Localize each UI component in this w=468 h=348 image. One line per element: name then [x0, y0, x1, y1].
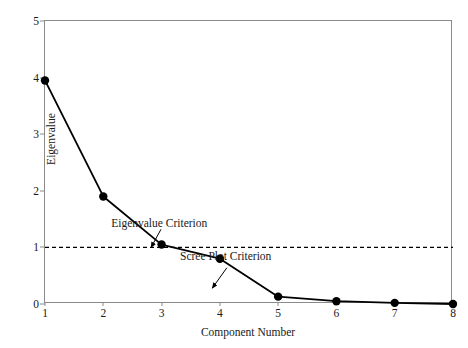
x-tick-label: 5: [275, 307, 281, 319]
data-marker-group: [41, 76, 457, 308]
data-point-marker: [391, 299, 399, 307]
data-point-marker: [41, 76, 49, 84]
eigenvalue-criterion-label: Eigenvalue Criterion: [111, 217, 207, 230]
y-tick-label: 1: [33, 241, 39, 253]
data-point-marker: [449, 300, 457, 308]
x-tick-label: 8: [450, 307, 456, 319]
y-tick-label: 5: [33, 15, 39, 27]
y-tick-label: 3: [33, 128, 39, 140]
y-tick-label: 2: [33, 185, 39, 197]
data-point-marker: [274, 292, 282, 300]
x-tick-label: 6: [334, 307, 340, 319]
data-line-group: [45, 80, 453, 304]
y-axis-label: Eigenvalue: [45, 89, 57, 189]
data-point-marker: [157, 240, 165, 248]
scree-plot-figure: 012345 12345678 Eigenvalue CriterionScre…: [0, 0, 468, 348]
x-tick-label: 1: [42, 307, 48, 319]
scree-plot-criterion-label: Scree Plot Criterion: [180, 250, 272, 262]
x-tick-label: 3: [159, 307, 165, 319]
x-tick-label: 7: [392, 307, 398, 319]
scree-plot-criterion-arrow: [212, 268, 227, 288]
y-tick-label: 4: [33, 72, 39, 84]
plot-area: 012345 12345678 Eigenvalue CriterionScre…: [44, 20, 452, 303]
data-point-marker: [99, 192, 107, 200]
y-tick-label: 0: [33, 298, 39, 310]
x-axis-label: Component Number: [44, 326, 452, 338]
data-point-marker: [332, 297, 340, 305]
plot-canvas: Eigenvalue CriterionScree Plot Criterion: [45, 21, 453, 304]
eigenvalue-line: [45, 80, 453, 304]
x-tick-label: 2: [100, 307, 106, 319]
x-tick-label: 4: [217, 307, 223, 319]
